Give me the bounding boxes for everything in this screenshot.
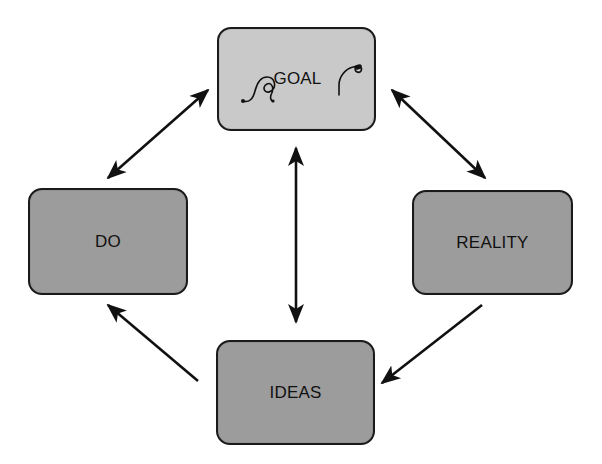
arrow-goal-reality (392, 90, 485, 178)
arrow-goal-do (108, 90, 208, 178)
arrow-reality-ideas (382, 305, 482, 383)
do-label: DO (95, 232, 121, 252)
goal-label: GOAL (273, 69, 321, 88)
arrow-ideas-do (108, 305, 198, 381)
node-reality: REALITY (412, 190, 573, 295)
reality-label: REALITY (456, 233, 528, 253)
node-do: DO (28, 188, 188, 295)
node-goal: GOAL (217, 27, 376, 131)
ideas-label: IDEAS (269, 383, 321, 403)
goal-reality-ideas-do-diagram: GOAL DO REALITY IDEAS (0, 0, 602, 464)
goal-label-group: GOAL (271, 69, 321, 89)
node-ideas: IDEAS (216, 340, 375, 445)
